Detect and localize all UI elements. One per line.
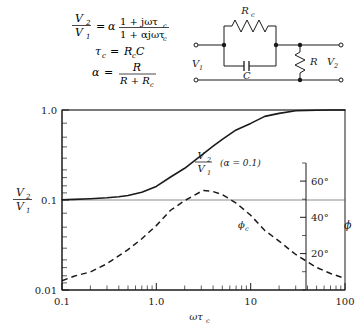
annotation-magnitude-denominator: V — [197, 163, 206, 174]
transfer-rhs-numerator: 1 + jωτ — [120, 16, 158, 27]
alpha-symbol: α — [92, 66, 100, 79]
alpha-coefficient: α — [108, 20, 116, 33]
tau-rhs-capacitor: C — [136, 45, 145, 58]
right-axis-title-phi: ϕ — [344, 219, 352, 232]
right-tick-labels: 60° 40° 20° — [311, 176, 329, 260]
x-axis-title-sub: c — [206, 317, 210, 325]
annotation-magnitude-denominator-sub: 1 — [207, 169, 211, 177]
x-tick-label-10: 10 — [244, 296, 257, 307]
alpha-denominator: R + R — [119, 75, 150, 86]
equals-sign-tau: = — [110, 45, 119, 58]
annotation-magnitude: V 2 V 1 (α = 0.1) — [195, 150, 261, 177]
circuit-diagram: R c C R V 1 V 2 — [192, 5, 343, 82]
tau-symbol: τ — [95, 45, 102, 58]
transfer-rhs-denominator-sub: c — [163, 35, 167, 43]
left-axis-title-denominator-sub: 1 — [26, 207, 30, 215]
annotation-magnitude-numerator-sub: 2 — [206, 156, 211, 164]
plot-area: 1.0 0.1 0.01 V 2 V 1 60° 40° 20° — [13, 105, 355, 326]
right-tick-label-60: 60° — [311, 176, 329, 187]
equation-block: V 2 V 1 = α 1 + jωτ c 1 + αjωτ c τ c = R… — [72, 12, 169, 89]
left-axis-title-denominator: V — [16, 200, 25, 213]
annotation-alpha-value: (α = 0.1) — [220, 158, 261, 168]
label-resistor-r: R — [309, 56, 318, 67]
resistor-r-zigzag — [295, 52, 305, 73]
label-capacitor-c: C — [243, 70, 251, 81]
input-terminal-top — [194, 43, 198, 47]
transfer-rhs-denominator: 1 + αjωτ — [120, 29, 165, 40]
left-axis-title-numerator: V — [16, 186, 25, 199]
label-resistor-rc: R — [240, 5, 249, 16]
x-axis-title: ωτ c — [189, 311, 210, 325]
alpha-numerator: R — [132, 61, 141, 74]
equals-sign-transfer: = — [96, 20, 105, 33]
right-tick-label-40: 40° — [311, 212, 329, 223]
annotation-phase-symbol-sub: c — [245, 225, 249, 233]
tau-rhs-resistor: R — [123, 45, 132, 58]
input-terminal-bottom — [194, 78, 198, 82]
annotation-phase-symbol: ϕ — [238, 219, 245, 230]
equation-alpha: α = R R + R c — [92, 61, 156, 89]
transfer-lhs-numerator: V — [75, 12, 84, 25]
right-axis — [300, 163, 306, 290]
equation-tau: τ c = R c C — [95, 45, 145, 60]
left-tick-label-0.01: 0.01 — [35, 285, 57, 296]
tau-symbol-sub: c — [102, 52, 106, 60]
label-output-v2-sub: 2 — [333, 62, 338, 70]
resistor-rc-zigzag — [232, 20, 268, 32]
x-tick-label-1.0: 1.0 — [148, 296, 164, 307]
label-resistor-rc-sub: c — [251, 11, 255, 19]
x-axis — [62, 283, 345, 290]
annotation-phase: ϕ c — [238, 219, 249, 233]
output-terminal-bottom — [339, 78, 343, 82]
transfer-lhs-denominator-sub: 1 — [86, 33, 90, 41]
equals-sign-alpha: = — [104, 66, 113, 79]
transfer-lhs-denominator: V — [75, 26, 84, 39]
equation-transfer-function: V 2 V 1 = α 1 + jωτ c 1 + αjωτ c — [72, 12, 169, 43]
figure-lead-network-response: V 2 V 1 = α 1 + jωτ c 1 + αjωτ c τ c = R… — [0, 0, 361, 333]
label-input-v1-sub: 1 — [199, 64, 203, 72]
left-tick-label-0.1: 0.1 — [41, 195, 57, 206]
x-tick-label-100: 100 — [335, 296, 354, 307]
left-tick-labels: 1.0 0.1 0.01 — [35, 105, 57, 296]
x-tick-labels: 0.1 1.0 10 100 — [54, 296, 355, 307]
left-axis-title: V 2 V 1 — [13, 186, 32, 215]
alpha-denominator-sub: c — [150, 81, 154, 89]
x-tick-label-0.1: 0.1 — [54, 296, 70, 307]
right-tick-label-20: 20° — [311, 248, 329, 259]
x-axis-title-main: ωτ — [189, 311, 203, 322]
left-tick-label-1.0: 1.0 — [41, 105, 57, 116]
output-terminal-top — [339, 43, 343, 47]
figure-canvas: V 2 V 1 = α 1 + jωτ c 1 + αjωτ c τ c = R… — [0, 0, 361, 333]
